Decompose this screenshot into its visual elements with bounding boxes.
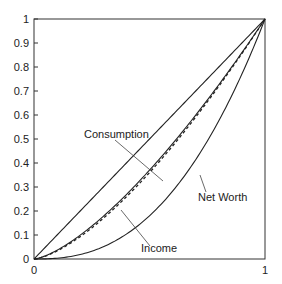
consumption-label: Consumption — [84, 128, 149, 140]
y-tick-label: 1 — [23, 13, 29, 25]
y-tick-label: 0.1 — [14, 229, 29, 241]
y-tick-label: 0.5 — [14, 133, 29, 145]
equality-line-curve — [34, 19, 265, 259]
x-tick-label: 0 — [31, 264, 37, 276]
y-axis-ticks — [34, 19, 38, 259]
x-tick-label: 1 — [262, 264, 268, 276]
net-worth-leader-line — [200, 175, 206, 192]
y-tick-label: 0.6 — [14, 109, 29, 121]
y-axis-labels: 0 0.1 0.2 0.3 0.4 0.5 0.6 0.7 0.8 0.9 1 — [14, 13, 29, 265]
net-worth-label: Net Worth — [198, 191, 247, 203]
y-tick-label: 0.9 — [14, 37, 29, 49]
y-tick-label: 0.4 — [14, 157, 29, 169]
consumption-leader-line — [115, 140, 163, 181]
lorenz-chart: 0 0.1 0.2 0.3 0.4 0.5 0.6 0.7 0.8 0.9 1 … — [0, 0, 282, 284]
y-tick-label: 0.8 — [14, 61, 29, 73]
y-tick-label: 0.2 — [14, 205, 29, 217]
y-tick-label: 0.3 — [14, 181, 29, 193]
y-tick-label: 0.7 — [14, 85, 29, 97]
income-leader-line — [121, 210, 150, 246]
y-tick-label: 0 — [23, 253, 29, 265]
series-lines — [34, 19, 265, 259]
income-label: Income — [141, 242, 177, 254]
